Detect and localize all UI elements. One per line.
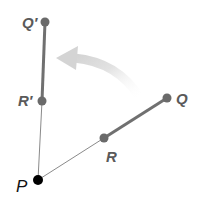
label-q: Q [176, 90, 188, 107]
segment-p-r [38, 138, 104, 180]
point-r-prime [38, 97, 47, 106]
point-q [163, 94, 172, 103]
label-p: P [16, 177, 28, 196]
point-r [100, 134, 109, 143]
point-p [33, 175, 43, 185]
segment-r-prime-q-prime [42, 22, 45, 101]
label-r-prime: R′ [18, 92, 34, 109]
rotation-diagram: P R Q R′ Q′ [0, 0, 198, 206]
segment-p-r-prime [38, 101, 42, 180]
point-q-prime [41, 18, 50, 27]
segment-r-q [104, 98, 167, 138]
rotation-arrow-icon [56, 46, 140, 98]
label-r: R [106, 148, 117, 165]
label-q-prime: Q′ [22, 14, 39, 31]
